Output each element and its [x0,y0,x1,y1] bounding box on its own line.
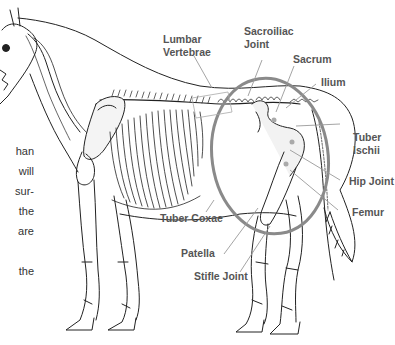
label-sacroiliac-joint: Sacroiliac Joint [244,25,294,51]
label-ilium: Ilium [321,76,346,89]
label-line: Sacroiliac [244,25,294,38]
label-tuber-ischii: Tuber Ischii [353,131,381,157]
label-tuber-coxae: Tuber Coxae [160,212,223,225]
label-stifle-joint: Stifle Joint [194,270,248,283]
horse-skeleton-diagram: han will sur- the are the [0,0,395,345]
skull [0,24,37,104]
label-line: Ischii [353,144,381,157]
cervical-vertebrae [28,34,80,132]
hind-legs [236,196,303,334]
label-hip-joint: Hip Joint [349,175,394,188]
label-lumbar-vertebrae: Lumbar Vertebrae [163,33,211,59]
label-femur: Femur [352,206,384,219]
label-line: Vertebrae [163,46,211,59]
label-sacrum: Sacrum [293,53,332,66]
front-legs [66,180,139,330]
label-line: Joint [244,38,294,51]
label-line: Tuber [353,131,381,144]
rib-cage [110,110,203,209]
label-line: Lumbar [163,33,211,46]
thoracic-spine [100,99,300,104]
label-patella: Patella [181,247,215,260]
pelvis [252,101,304,176]
